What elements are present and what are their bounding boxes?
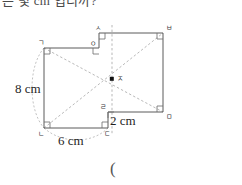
diagonal-na-bi (44, 33, 163, 128)
left-square (44, 33, 108, 128)
dimension-offset-2cm: 2 cm (110, 114, 136, 127)
center-point-dot (110, 77, 114, 81)
right-angle-da (102, 122, 108, 128)
vertex-label-na: ㄴ (38, 131, 44, 138)
dimension-left-8cm: 8 cm (15, 82, 41, 95)
diagonals (44, 25, 163, 135)
right-angle-o (93, 48, 99, 54)
answer-paren: ( (110, 160, 116, 177)
vertex-label-ra: ㄹ (100, 104, 106, 111)
vertex-label-mi: ㅁ (166, 114, 172, 121)
vertex-label-ga: ㄱ (38, 40, 44, 47)
vertex-label-ja: ㅈ (117, 76, 123, 83)
vertex-label-da: ㄷ (104, 131, 110, 138)
right-angle-sa (99, 33, 105, 39)
right-square (99, 33, 163, 112)
vertex-label-o: ㅇ (90, 41, 96, 48)
figure-page: 은 몇 cm 입니까? (0, 0, 242, 185)
vertex-label-sa: ㅅ (95, 25, 101, 32)
vertex-label-bi: ㅂ (166, 25, 172, 32)
dimension-bottom-6cm: 6 cm (58, 134, 84, 147)
right-angle-bi (157, 33, 163, 39)
